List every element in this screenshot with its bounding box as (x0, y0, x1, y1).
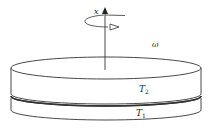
rotation-arrowhead-icon (110, 24, 119, 30)
axis-label: x (94, 7, 99, 16)
top-surface (11, 57, 201, 79)
axis-arrowhead-icon (102, 7, 108, 14)
omega-label: ω (152, 40, 159, 49)
upper-disc (11, 57, 201, 106)
rotating-disc-diagram: x ω T2 T1 (0, 0, 212, 135)
